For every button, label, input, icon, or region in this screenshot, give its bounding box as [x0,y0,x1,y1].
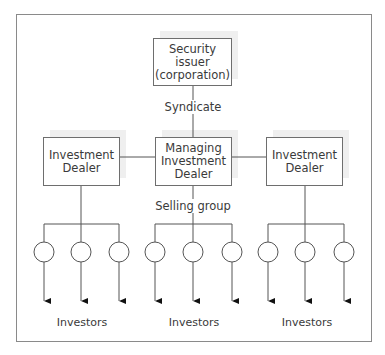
left-investment-dealer-label: Investment Dealer [49,149,114,175]
investors-label-left: Investors [57,316,108,329]
syndicate-label: Syndicate [163,100,224,114]
investors-label-center: Investors [169,316,220,329]
managing-investment-dealer-label: Managing Investment Dealer [161,142,226,181]
security-issuer-box: Security issuer (corporation) [153,38,232,86]
left-investment-dealer-box: Investment Dealer [43,137,120,186]
managing-investment-dealer-box: Managing Investment Dealer [155,137,232,186]
selling-group-label: Selling group [153,199,233,213]
right-investment-dealer-label: Investment Dealer [272,149,337,175]
right-investment-dealer-box: Investment Dealer [266,137,343,186]
security-issuer-label: Security issuer (corporation) [155,43,230,82]
selling-group-members [34,242,354,262]
investors-label-right: Investors [282,316,333,329]
